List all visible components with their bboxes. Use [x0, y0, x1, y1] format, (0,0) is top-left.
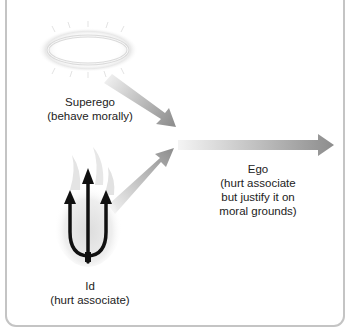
superego-label: Superego (behave morally)	[40, 95, 140, 123]
ego-arrow	[178, 134, 334, 156]
superego-title: Superego	[40, 95, 140, 109]
id-title: Id	[40, 279, 140, 293]
halo-icon	[38, 21, 138, 78]
id-label: Id (hurt associate)	[40, 279, 140, 307]
trident-flame-icon	[54, 147, 122, 267]
ego-desc-line-2: but justify it on	[208, 190, 308, 204]
ego-title: Ego	[208, 162, 308, 176]
id-desc: (hurt associate)	[40, 293, 140, 307]
ego-label: Ego (hurt associate but justify it on mo…	[208, 162, 308, 218]
ego-desc-line-1: (hurt associate	[208, 176, 308, 190]
superego-desc: (behave morally)	[40, 109, 140, 123]
ego-desc-line-3: moral grounds)	[208, 204, 308, 218]
